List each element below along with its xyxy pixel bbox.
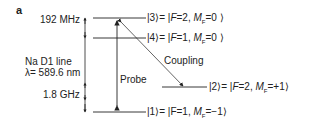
- state-2-label: |2⟩= |F=2, MF=+1⟩: [209, 81, 289, 97]
- coupling-label: Coupling: [164, 55, 203, 66]
- lower-splitting-label: 1.8 GHz: [43, 89, 80, 100]
- state-4-label: |4⟩= |F=1, MF=0 ⟩: [147, 32, 224, 48]
- state-1-label: |1⟩= |F=1, MF=−1⟩: [147, 106, 227, 122]
- state-3-label: |3⟩= |F=2, MF=0 ⟩: [147, 12, 224, 28]
- upper-splitting-label: 192 MHz: [40, 14, 80, 25]
- probe-label: Probe: [120, 74, 147, 85]
- wavelength-label: λ= 589.6 nm: [25, 67, 80, 78]
- transition-line-label: Na D1 line: [25, 56, 72, 67]
